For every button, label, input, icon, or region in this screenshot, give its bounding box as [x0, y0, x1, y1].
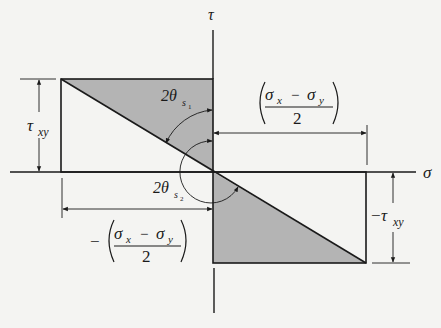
svg-text:xy: xy [392, 215, 404, 229]
svg-text:2: 2 [180, 195, 184, 203]
half-diff-neg-label: − σ x − σ y 2 [90, 220, 186, 266]
svg-text:2θ: 2θ [153, 179, 169, 196]
svg-text:x: x [276, 94, 282, 106]
svg-text:σ: σ [114, 224, 123, 243]
angle-s2-label: 2θ s 2 [153, 179, 184, 203]
svg-text:2θ: 2θ [161, 87, 177, 104]
svg-text:1: 1 [188, 103, 192, 111]
svg-text:x: x [125, 233, 131, 245]
tau-axis-label: τ [208, 6, 215, 23]
svg-text:τ: τ [27, 116, 34, 135]
svg-text:−: − [140, 226, 148, 242]
svg-text:−: − [90, 232, 100, 251]
svg-text:σ: σ [156, 224, 165, 243]
svg-text:−: − [291, 87, 299, 103]
svg-text:σ: σ [265, 85, 274, 104]
svg-text:xy: xy [37, 125, 49, 139]
stress-diagram: τ σ τ xy − τ xy 2θ s 1 2θ s 2 σ x − σ y … [0, 0, 441, 328]
svg-text:σ: σ [307, 85, 316, 104]
svg-text:τ: τ [381, 206, 388, 225]
svg-text:−: − [371, 206, 381, 225]
half-diff-pos-label: σ x − σ y 2 [260, 82, 338, 128]
svg-text:s: s [182, 97, 186, 108]
svg-text:y: y [318, 94, 324, 106]
svg-text:y: y [167, 233, 173, 245]
sigma-axis-label: σ [423, 163, 432, 182]
svg-text:2: 2 [142, 247, 151, 266]
tau-xy-right-label: − τ xy [371, 206, 404, 229]
svg-text:s: s [174, 189, 178, 200]
tau-xy-left-label: τ xy [27, 116, 49, 139]
svg-text:2: 2 [293, 109, 302, 128]
